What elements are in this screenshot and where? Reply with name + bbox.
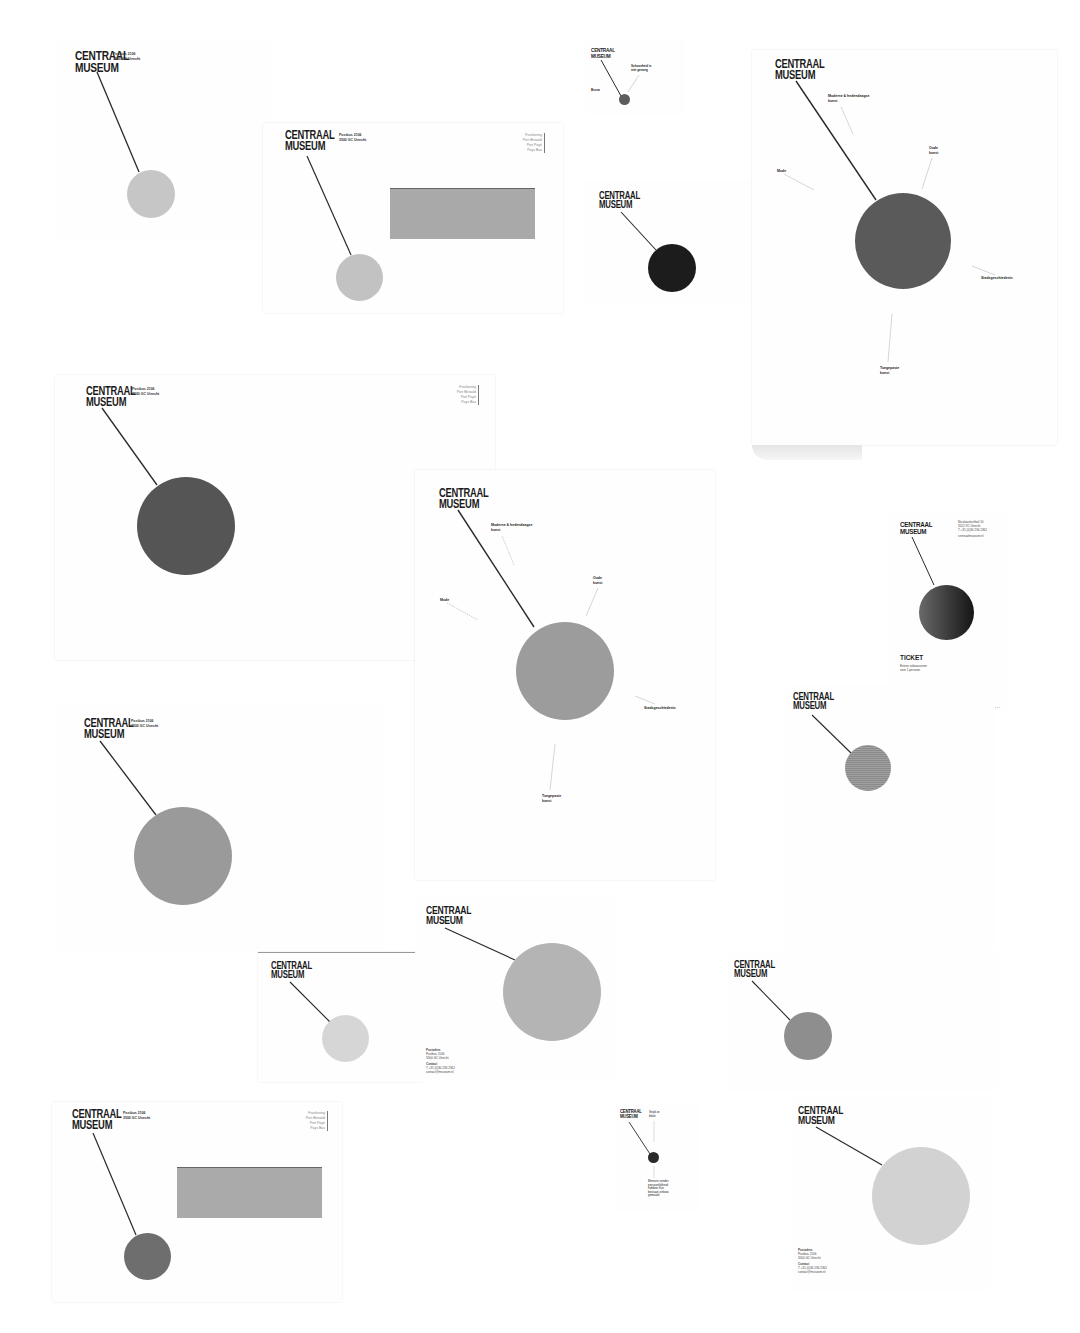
- poster-collections-1: CENTRAAL MUSEUM Moderne & hedendaagse ku…: [752, 50, 1057, 445]
- label-schoonheid: Schoonheid is niet genoeg: [631, 65, 655, 72]
- centraal-museum-logo: CENTRAAL MUSEUM: [798, 1105, 843, 1125]
- circle-dark-small: [619, 94, 630, 105]
- label-mode: Mode: [777, 169, 786, 174]
- letterhead-sheet-1: CENTRAAL MUSEUM Postbus 2106 3500 GC Utr…: [55, 40, 270, 240]
- postal-address-block: Postadres Postbus 2106 3500 GC Utrecht C…: [426, 1049, 455, 1075]
- card-top-edge: [258, 952, 423, 953]
- circle-mid-large: [516, 622, 614, 720]
- centraal-museum-logo: CENTRAAL MUSEUM: [775, 59, 825, 81]
- centraal-museum-logo: CENTRAAL MUSEUM: [591, 48, 615, 59]
- label-mode: Mode: [440, 598, 449, 603]
- centraal-museum-logo: CENTRAAL MUSEUM: [72, 1109, 122, 1131]
- label-stadsgeschiedenis: Stadsgeschiedenis: [981, 276, 1013, 281]
- envelope-address: Postbus 2106 3500 GC Utrecht: [339, 133, 366, 142]
- centraal-museum-logo: CENTRAAL MUSEUM: [439, 488, 489, 510]
- ticket: CENTRAAL MUSEUM Nicolaaskerkhof 10 3512 …: [890, 510, 1010, 710]
- card-light-circle: CENTRAAL MUSEUM: [258, 952, 423, 1082]
- circle-dark-medium: [124, 1233, 171, 1280]
- letterhead-address: Postbus 2106 3500 GC Utrecht: [113, 52, 140, 61]
- centraal-museum-logo: CENTRAAL MUSEUM: [285, 130, 335, 152]
- circle-light: [127, 170, 175, 218]
- circle-dark-large: [855, 193, 951, 289]
- circle-very-light: [322, 1015, 369, 1062]
- centraal-museum-logo: CENTRAAL MUSEUM: [620, 1109, 642, 1119]
- centraal-museum-logo: CENTRAAL MUSEUM: [900, 521, 932, 536]
- label-oude-kunst: Oude kunst: [593, 576, 607, 585]
- centraal-museum-logo: CENTRAAL MUSEUM: [271, 961, 312, 979]
- letterhead-sheet-3: CENTRAAL MUSEUM Postbus 2106 3500 GC Utr…: [55, 705, 385, 950]
- poster-collections-2: CENTRAAL MUSEUM Moderne & hedendaagse ku…: [415, 470, 715, 880]
- ticket-address: Nicolaaskerkhof 10 3512 XC Utrecht T +31…: [958, 521, 987, 539]
- circle-gradient: [919, 585, 974, 640]
- label-toegepaste-kunst: Toegepaste kunst: [880, 366, 900, 375]
- centraal-museum-logo: CENTRAAL MUSEUM: [86, 386, 136, 408]
- circle-light: [336, 254, 383, 301]
- ticket-title: TICKET: [900, 653, 923, 662]
- label-stadsgeschiedenis: Stadsgeschiedenis: [644, 706, 676, 711]
- card-mid-circle: CENTRAAL MUSEUM: [728, 952, 998, 1092]
- connector-line: [785, 685, 995, 950]
- card-striped-circle: CENTRAAL MUSEUM: [785, 685, 995, 950]
- circle-light-large: [503, 943, 601, 1041]
- label-toegepaste-kunst: Toegepaste kunst: [542, 794, 562, 803]
- label-oude-kunst: Oude kunst: [929, 146, 943, 155]
- postage-stamp: Frankering Port Betaald Port Payé Pays B…: [523, 133, 545, 153]
- centraal-museum-logo: CENTRAAL MUSEUM: [84, 718, 134, 740]
- circle-mid-small: [784, 1012, 832, 1060]
- circle-striped: [845, 745, 891, 791]
- envelope-address: Postbus 2106 3500 GC Utrecht: [123, 1111, 150, 1120]
- letterhead-address: Postbus 2106 3500 GC Utrecht: [132, 387, 159, 396]
- small-card-2: CENTRAAL MUSEUM Snijd ze bloot Mensen zo…: [615, 1102, 700, 1212]
- circle-mid: [134, 807, 232, 905]
- circle-black-small: [648, 1152, 659, 1163]
- postage-stamp: Frankering Port Betaald Port Payé Pays B…: [306, 1111, 328, 1131]
- compliment-card-1: CENTRAAL MUSEUM Postadres Postbus 2106 3…: [415, 897, 615, 1082]
- centraal-museum-logo: CENTRAAL MUSEUM: [599, 191, 640, 209]
- label-moderne-kunst: Moderne & hedendaagse kunst: [828, 94, 873, 103]
- address-window: [177, 1167, 322, 1218]
- circle-very-light-large: [872, 1147, 970, 1245]
- label-mensen: Mensen zonder persoonlijkheid hebben hun…: [648, 1180, 674, 1198]
- circle-dark: [137, 477, 235, 575]
- label-snijd: Snijd ze bloot: [649, 1111, 663, 1118]
- envelope-window-1: CENTRAAL MUSEUM Postbus 2106 3500 GC Utr…: [263, 123, 563, 313]
- envelope-window-2: CENTRAAL MUSEUM Postbus 2106 3500 GC Utr…: [52, 1102, 342, 1302]
- address-window: [390, 188, 535, 239]
- centraal-museum-logo: CENTRAAL MUSEUM: [793, 692, 834, 710]
- postage-stamp: Frankering Port Betaald Port Payé Pays B…: [457, 385, 479, 405]
- letterhead-address: Postbus 2106 3500 GC Utrecht: [131, 719, 158, 728]
- compliment-card-2: CENTRAAL MUSEUM Postadres Postbus 2106 3…: [790, 1097, 990, 1292]
- card-black-circle: CENTRAAL MUSEUM: [585, 180, 755, 305]
- small-card-1: CENTRAAL MUSEUM Schoonheid is niet genoe…: [585, 40, 685, 115]
- centraal-museum-logo: CENTRAAL MUSEUM: [426, 905, 471, 925]
- postal-address-block: Postadres Postbus 2106 3500 GC Utrecht C…: [798, 1249, 827, 1275]
- label-moderne-kunst: Moderne & hedendaagse kunst: [491, 523, 536, 532]
- ticket-subtitle: Entree volwassenen voor 1 persoon: [900, 665, 927, 673]
- label-bruna: Bruna: [591, 88, 600, 93]
- circle-black: [648, 244, 696, 292]
- poster-curl-shadow: [752, 445, 862, 460]
- centraal-museum-logo: CENTRAAL MUSEUM: [734, 960, 775, 978]
